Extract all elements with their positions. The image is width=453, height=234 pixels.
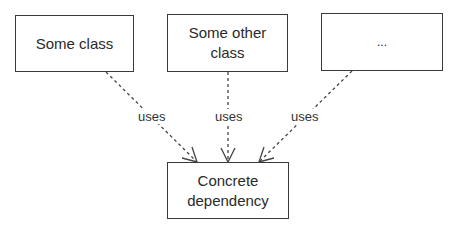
edge-label-uses: uses [137,109,166,124]
node-some-other-class: Some other class [167,14,288,72]
edge-label-uses: uses [214,109,243,124]
node-ellipsis: ... [321,13,443,71]
node-label: Concrete dependency [183,171,273,211]
node-concrete-dependency: Concrete dependency [167,162,289,219]
node-some-class: Some class [15,15,134,72]
edge-label-uses: uses [290,109,319,124]
node-label: Some class [36,34,114,54]
node-label: Some other class [183,23,273,63]
node-label: ... [377,32,387,52]
